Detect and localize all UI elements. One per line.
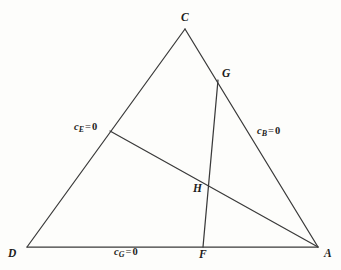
vertex-label-H: H — [193, 183, 202, 195]
constraint-label-cG: cG=0 — [114, 247, 138, 259]
constraint-value-cG: 0 — [132, 246, 137, 257]
constraint-operator-cE: = — [84, 121, 92, 132]
edge-C-A — [185, 29, 318, 247]
vertex-label-G: G — [222, 68, 230, 80]
cevian-E-A — [110, 131, 318, 247]
triangle-figure — [0, 0, 341, 270]
vertex-label-A: A — [324, 248, 332, 260]
diagram-canvas: C G H D F A cE=0 cB=0 cG=0 — [0, 0, 341, 270]
constraint-value-cB: 0 — [275, 125, 280, 136]
constraint-label-cB: cB=0 — [257, 126, 280, 138]
vertex-label-C: C — [181, 12, 189, 24]
constraint-label-cE: cE=0 — [74, 122, 97, 134]
cevian-G-F — [203, 80, 218, 247]
vertex-label-D: D — [8, 248, 16, 260]
constraint-operator-cB: = — [267, 125, 275, 136]
constraint-value-cE: 0 — [92, 121, 97, 132]
edge-D-C — [27, 29, 185, 247]
vertex-label-F: F — [199, 249, 207, 261]
